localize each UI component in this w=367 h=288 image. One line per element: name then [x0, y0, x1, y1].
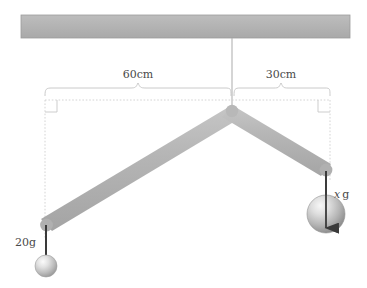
- left-mass: 20g: [15, 225, 57, 277]
- right-angle-markers: [45, 100, 330, 112]
- diagram-canvas: 60cm 30cm 20g xg: [0, 0, 367, 288]
- bent-rod: [40, 105, 332, 232]
- dimension-label-left: 60cm: [123, 68, 154, 81]
- left-mass-sphere: [35, 255, 57, 277]
- dimension-brace-left: [45, 83, 231, 96]
- ceiling-bar: [21, 15, 350, 38]
- dimension-brace-right: [234, 83, 330, 96]
- dimension-guides: [45, 100, 330, 238]
- dimension-label-right: 30cm: [266, 68, 297, 81]
- right-mass: xg: [307, 171, 349, 233]
- right-mass-variable: x: [334, 188, 341, 201]
- right-mass-label: xg: [334, 188, 349, 201]
- physics-diagram-svg: 60cm 30cm 20g xg: [0, 0, 367, 288]
- right-mass-unit: g: [342, 188, 349, 201]
- left-mass-label: 20g: [15, 236, 36, 249]
